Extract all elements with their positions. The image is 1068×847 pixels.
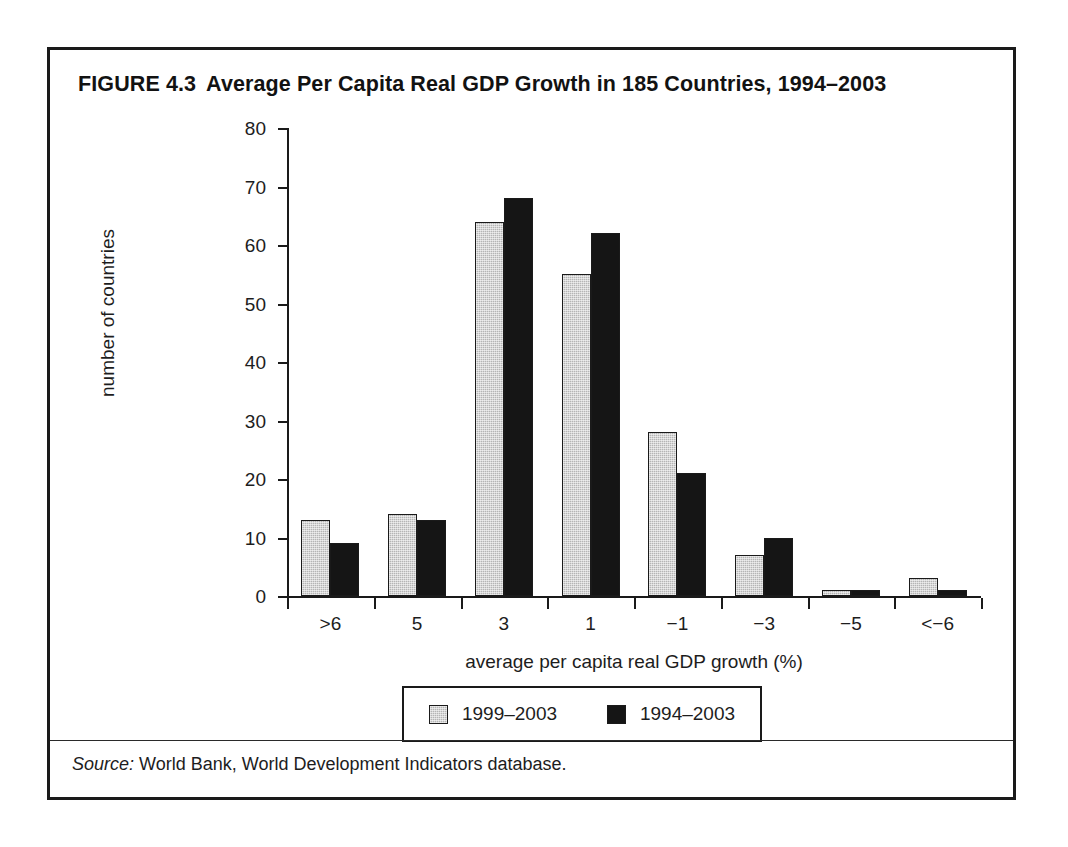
source-label: Source: [72, 754, 134, 774]
legend-swatch-icon-0 [429, 705, 448, 724]
x-tick-label: −5 [813, 613, 889, 635]
x-axis-title: average per capita real GDP growth (%) [287, 651, 981, 673]
bar-3-1994–2003 [504, 198, 533, 596]
bar-<−6-1994–2003 [938, 590, 967, 596]
legend-label-0: 1999–2003 [462, 703, 557, 725]
bar-−5-1999–2003 [822, 590, 851, 596]
y-tick-label: 80 [212, 119, 266, 138]
source-text: World Bank, World Development Indicators… [134, 754, 567, 774]
legend-label-1: 1994–2003 [640, 703, 735, 725]
x-tick-label: 1 [553, 613, 629, 635]
x-tick-label: 5 [379, 613, 455, 635]
y-axis-line [287, 128, 289, 598]
legend-entry-1[interactable]: 1994–2003 [607, 703, 735, 725]
bar-−3-1994–2003 [764, 538, 793, 597]
bar-5-1994–2003 [417, 520, 446, 596]
y-tick-mark [278, 187, 287, 189]
bar-−1-1994–2003 [677, 473, 706, 596]
bar->6-1994–2003 [330, 543, 359, 596]
bar-−1-1999–2003 [648, 432, 677, 596]
bar-5-1999–2003 [388, 514, 417, 596]
y-tick-label: 60 [212, 236, 266, 255]
y-axis-title: number of countries [97, 203, 119, 423]
x-tick-mark [461, 598, 463, 609]
x-tick-mark [808, 598, 810, 609]
x-tick-label: 3 [466, 613, 542, 635]
y-tick-mark [278, 245, 287, 247]
bar-1-1999–2003 [562, 274, 591, 596]
y-tick-label: 10 [212, 529, 266, 548]
y-tick-label: 40 [212, 353, 266, 372]
figure-frame: FIGURE 4.3Average Per Capita Real GDP Gr… [47, 47, 1016, 800]
y-tick-label: 70 [212, 178, 266, 197]
y-tick-mark [278, 128, 287, 130]
bar-<−6-1999–2003 [909, 578, 938, 596]
chart-legend: 1999–2003 1994–2003 [402, 686, 762, 742]
x-tick-mark [547, 598, 549, 609]
y-tick-mark [278, 304, 287, 306]
y-tick-mark [278, 479, 287, 481]
x-tick-label: <−6 [900, 613, 976, 635]
x-tick-label: −1 [639, 613, 715, 635]
source-line: Source: World Bank, World Development In… [72, 754, 567, 775]
bar->6-1999–2003 [301, 520, 330, 596]
x-tick-label: >6 [292, 613, 368, 635]
y-tick-mark [278, 421, 287, 423]
x-tick-mark [634, 598, 636, 609]
y-tick-label: 50 [212, 295, 266, 314]
chart-plot-area: number of countries 01020304050607080 >6… [50, 50, 1013, 797]
y-tick-mark [278, 596, 287, 598]
bar-−5-1994–2003 [851, 590, 880, 596]
x-tick-mark [981, 598, 983, 609]
source-divider [50, 740, 1013, 741]
y-tick-mark [278, 538, 287, 540]
x-tick-label: −3 [726, 613, 802, 635]
y-tick-mark [278, 362, 287, 364]
y-tick-label: 20 [212, 470, 266, 489]
bar-3-1999–2003 [475, 222, 504, 596]
y-tick-label: 30 [212, 412, 266, 431]
x-tick-mark [374, 598, 376, 609]
bar-1-1994–2003 [591, 233, 620, 596]
legend-entry-0[interactable]: 1999–2003 [429, 703, 557, 725]
x-tick-mark [721, 598, 723, 609]
legend-swatch-icon-1 [607, 705, 626, 724]
bar-−3-1999–2003 [735, 555, 764, 596]
x-tick-mark [287, 598, 289, 609]
y-tick-label: 0 [212, 587, 266, 606]
x-tick-mark [894, 598, 896, 609]
